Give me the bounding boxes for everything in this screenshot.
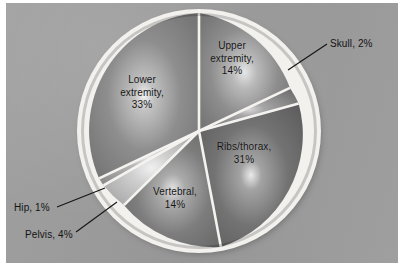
slice-label-ribs-thorax: Ribs/thorax, 31% [198,141,290,166]
slice-label-lower-extremity: Lower extremity, 33% [104,74,180,112]
slice-label-upper-extremity: Upper extremity, 14% [196,40,268,78]
slice-label-pelvis: Pelvis, 4% [25,229,73,241]
slice-label-skull: Skull, 2% [330,38,373,50]
figure-root: Upper extremity, 14% Lower extremity, 33… [0,0,401,270]
slice-label-vertebral: Vertebral, 14% [136,186,214,211]
slice-label-hip: Hip, 1% [14,202,50,214]
